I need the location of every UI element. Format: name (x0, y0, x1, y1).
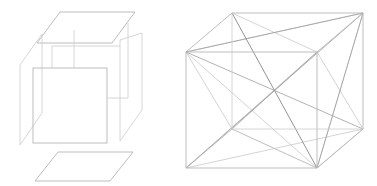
cube-edge-connect-top-left (186, 13, 232, 52)
diag-ftl-to-btr-upper (186, 13, 363, 52)
cube-edge-connect-top-right (317, 13, 363, 52)
cube-edge-connect-bottom-left (186, 129, 232, 168)
figure-canvas (0, 0, 377, 186)
diagonal-cube-figure (0, 0, 377, 186)
space-diagonal-ftr-to-bbl (232, 52, 317, 129)
diag-fbr-to-bbl (232, 129, 317, 168)
diagonal-cube-diagonals (186, 13, 363, 168)
cube-edge-connect-bottom-right (317, 129, 363, 168)
diag-fbr-to-ftr-vert (317, 13, 363, 168)
diag-left-face-ftl-to-bbl (186, 52, 232, 129)
